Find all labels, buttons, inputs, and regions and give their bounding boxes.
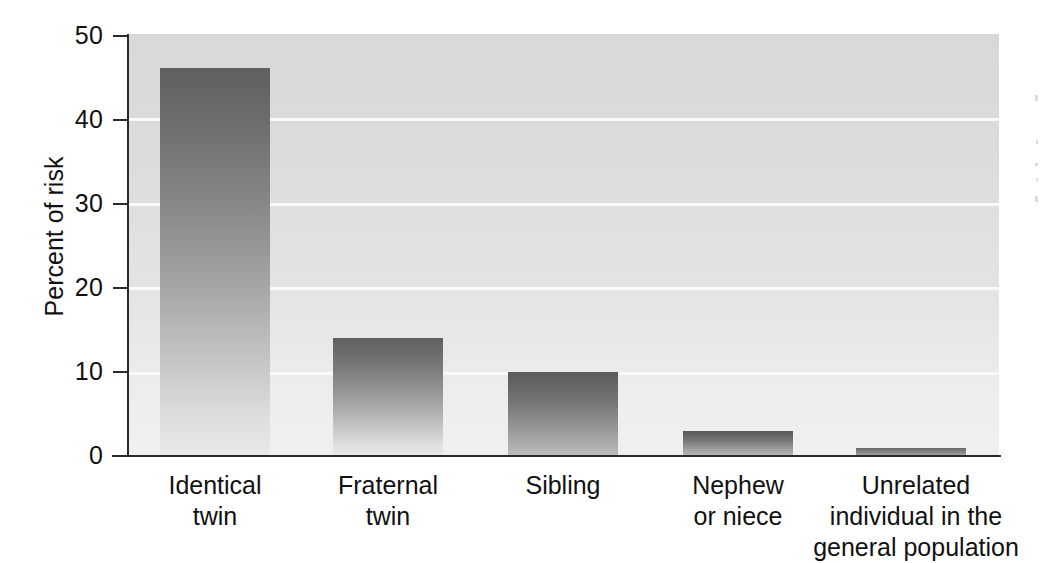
y-tick-label-0: 0 bbox=[43, 443, 103, 468]
y-tick-mark-0 bbox=[113, 455, 128, 457]
scan-artifact bbox=[1036, 178, 1038, 181]
y-tick-mark-40 bbox=[113, 119, 128, 121]
y-tick-mark-30 bbox=[113, 203, 128, 205]
y-tick-mark-50 bbox=[113, 35, 128, 37]
scan-artifact bbox=[1036, 140, 1038, 144]
category-label-line: general population bbox=[791, 532, 1041, 563]
bar-fraternal-twin[interactable] bbox=[333, 338, 443, 456]
scan-artifact bbox=[1035, 196, 1038, 202]
bar-sibling[interactable] bbox=[508, 372, 618, 456]
category-label-line: Unrelated bbox=[791, 470, 1041, 501]
bar-identical-twin[interactable] bbox=[160, 68, 270, 456]
category-label-line: individual in the bbox=[791, 501, 1041, 532]
y-tick-label-50: 50 bbox=[43, 23, 103, 48]
bar-nephew-or-niece[interactable] bbox=[683, 431, 793, 456]
y-tick-mark-20 bbox=[113, 287, 128, 289]
scan-artifact bbox=[1035, 95, 1038, 101]
scan-artifact bbox=[1035, 163, 1038, 166]
y-axis-line bbox=[127, 34, 129, 457]
x-axis-line bbox=[112, 455, 1001, 457]
plot-area bbox=[128, 34, 999, 456]
category-label-unrelated-individual: Unrelated individual in the general popu… bbox=[791, 470, 1041, 563]
category-label-line: twin bbox=[278, 501, 498, 532]
y-axis-title: Percent of risk bbox=[42, 87, 67, 387]
y-tick-mark-10 bbox=[113, 371, 128, 373]
